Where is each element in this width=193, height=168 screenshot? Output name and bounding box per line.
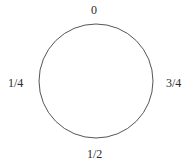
circle-diagram: 0 1/4 3/4 1/2 — [0, 0, 193, 168]
label-zero: 0 — [91, 4, 97, 16]
label-one-quarter: 1/4 — [8, 77, 23, 89]
label-three-quarters: 3/4 — [166, 77, 181, 89]
unit-circle — [39, 24, 153, 138]
circle-svg — [0, 0, 193, 168]
label-one-half: 1/2 — [87, 148, 102, 160]
